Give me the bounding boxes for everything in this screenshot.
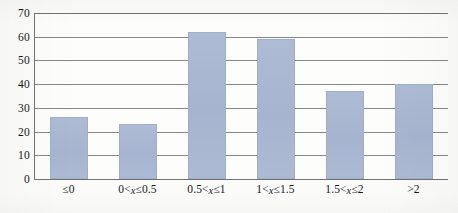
bar-slot — [379, 13, 448, 179]
bar-slot — [241, 13, 310, 179]
plot-area: 706050403020100 — [34, 13, 448, 180]
x-axis-tick-label: 0<x≤0.5 — [103, 183, 172, 196]
bar-5[interactable] — [395, 84, 433, 179]
x-axis-tick-label: >2 — [379, 183, 448, 196]
x-axis-tick-label: ≤0 — [34, 183, 103, 196]
x-axis-labels: ≤00<x≤0.50.5<x≤11<x≤1.51.5<x≤2>2 — [34, 183, 448, 196]
bar-slot — [173, 13, 242, 179]
x-axis-tick-label: 1.5<x≤2 — [310, 183, 379, 196]
y-axis-tick-label: 70 — [18, 7, 30, 19]
bar-slot — [310, 13, 379, 179]
bar-slot — [35, 13, 104, 179]
x-axis-tick-label: 1<x≤1.5 — [241, 183, 310, 196]
bar-slot — [104, 13, 173, 179]
bar-4[interactable] — [326, 91, 364, 179]
y-axis-tick-label: 20 — [18, 126, 30, 138]
y-axis-tick-label: 0 — [24, 173, 30, 185]
y-axis-tick-label: 10 — [18, 149, 30, 161]
y-axis-tick-label: 50 — [18, 54, 30, 66]
bar-3[interactable] — [257, 39, 295, 179]
bars-group — [35, 13, 448, 179]
bar-2[interactable] — [188, 32, 226, 179]
bar-chart-figure: 706050403020100 ≤00<x≤0.50.5<x≤11<x≤1.51… — [0, 0, 458, 213]
x-axis-tick-label: 0.5<x≤1 — [172, 183, 241, 196]
y-axis-tick-label: 60 — [18, 31, 30, 43]
bar-0[interactable] — [50, 117, 88, 179]
y-axis-tick-label: 30 — [18, 102, 30, 114]
y-axis-tick-label: 40 — [18, 78, 30, 90]
bar-1[interactable] — [119, 124, 157, 179]
